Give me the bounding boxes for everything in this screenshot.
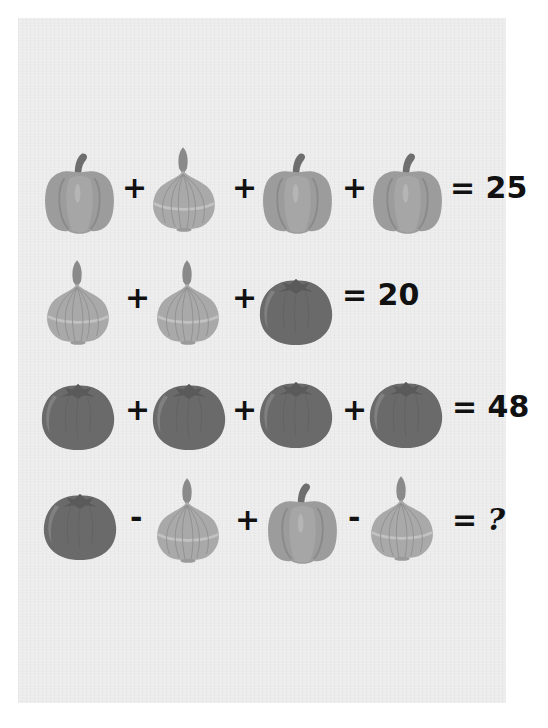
onion-icon [150, 143, 218, 235]
operator-minus: - [348, 503, 360, 533]
tomato-icon [258, 275, 334, 347]
operator-plus: + [232, 173, 257, 203]
onion-icon [368, 472, 436, 564]
operator-minus: - [130, 503, 142, 533]
question-mark: ? [488, 502, 506, 537]
bell-pepper-icon [370, 150, 445, 235]
onion-icon [154, 256, 222, 348]
operator-plus: + [125, 283, 150, 313]
operator-plus: + [235, 505, 260, 535]
operator-plus: + [125, 395, 150, 425]
tomato-icon [368, 378, 444, 450]
operator-plus: + [232, 395, 257, 425]
operator-plus: + [232, 283, 257, 313]
tomato-icon [258, 378, 334, 450]
operator-plus: + [342, 395, 367, 425]
result-text: = 25 [450, 173, 527, 203]
bell-pepper-icon [260, 150, 335, 235]
result-text: = 48 [452, 392, 529, 422]
result-text: = ? [452, 505, 505, 535]
puzzle-card [18, 18, 506, 703]
operator-plus: + [122, 173, 147, 203]
tomato-icon [42, 490, 118, 562]
result-text: = 20 [342, 280, 419, 310]
bell-pepper-icon [265, 480, 340, 565]
cropped-header-text [22, 0, 162, 4]
onion-icon [154, 474, 222, 566]
tomato-icon [40, 380, 116, 452]
tomato-icon [151, 380, 227, 452]
operator-plus: + [342, 173, 367, 203]
equals-sign: = [452, 502, 477, 537]
bell-pepper-icon [42, 150, 117, 235]
onion-icon [44, 256, 112, 348]
